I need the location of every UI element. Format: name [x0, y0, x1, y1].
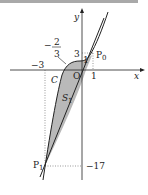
y-tick-3: 3 [74, 49, 80, 59]
x-axis-label: x [134, 71, 139, 81]
x-tick-neg3: −3 [31, 60, 45, 70]
y-tick-1: 1 [83, 55, 89, 65]
x-axis-arrow-icon [140, 68, 145, 72]
y-axis-label: y [73, 12, 80, 22]
origin-label: O [73, 71, 80, 81]
curve-label-c: C [51, 75, 58, 85]
y-axis-arrow-icon [80, 8, 84, 13]
fraction-sign: − [44, 40, 52, 50]
x-tick-1: 1 [91, 71, 97, 81]
y-tick-neg17: −17 [86, 161, 105, 171]
region-label-sub: 1 [68, 97, 72, 105]
fraction-denominator: 3 [54, 49, 60, 59]
diagram: y x O −3 1 3 1 −17 − 2 3 C S 1 P 0 P 1 [0, 0, 148, 195]
point-p1-sub: 1 [39, 164, 43, 172]
point-p0-sub: 0 [102, 54, 106, 62]
fraction-numerator: 2 [54, 37, 60, 47]
